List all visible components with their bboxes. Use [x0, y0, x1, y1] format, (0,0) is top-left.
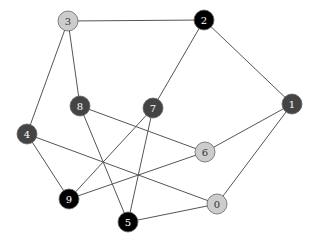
graph-canvas: 0123456789: [0, 0, 314, 243]
edge-2-1: [204, 20, 292, 104]
edge-5-0: [128, 204, 217, 222]
edge-8-6: [80, 106, 205, 152]
node-label: 8: [77, 101, 83, 112]
node-9: 9: [59, 189, 79, 209]
edge-4-0: [27, 134, 217, 204]
node-8: 8: [70, 96, 90, 116]
edge-2-7: [153, 20, 204, 108]
node-label: 0: [214, 199, 220, 210]
edge-3-4: [27, 21, 68, 134]
node-label: 7: [150, 103, 156, 114]
edge-6-1: [205, 104, 292, 152]
edge-1-0: [217, 104, 292, 204]
node-label: 1: [289, 99, 295, 110]
edge-4-9: [27, 134, 69, 199]
edge-3-2: [68, 20, 204, 21]
edge-3-8: [68, 21, 80, 106]
node-2: 2: [194, 10, 214, 30]
node-4: 4: [17, 124, 37, 144]
node-6: 6: [195, 142, 215, 162]
node-0: 0: [207, 194, 227, 214]
node-5: 5: [118, 212, 138, 232]
node-1: 1: [282, 94, 302, 114]
node-label: 5: [125, 217, 131, 228]
node-label: 9: [66, 194, 72, 205]
node-3: 3: [58, 11, 78, 31]
edge-7-9: [69, 108, 153, 199]
node-label: 4: [24, 129, 30, 140]
edge-8-5: [80, 106, 128, 222]
node-7: 7: [143, 98, 163, 118]
node-label: 6: [202, 147, 208, 158]
node-label: 2: [201, 15, 207, 26]
node-label: 3: [65, 16, 71, 27]
